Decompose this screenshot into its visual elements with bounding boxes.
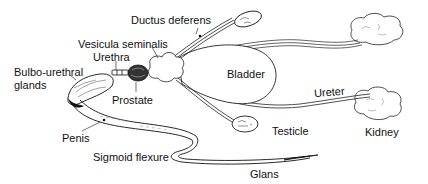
label-penis: Penis <box>62 132 90 144</box>
label-bulbo-urethral-line2: glands <box>14 79 46 91</box>
label-vesicula-seminalis: Vesicula seminalis <box>78 38 168 50</box>
label-prostate: Prostate <box>112 94 153 106</box>
label-kidney: Kidney <box>365 126 399 138</box>
testicle-lower <box>232 116 258 132</box>
urethra <box>112 70 128 75</box>
vesicula-seminalis <box>148 53 183 82</box>
kidney-upper <box>351 13 403 44</box>
label-bladder: Bladder <box>227 68 265 80</box>
label-glans: Glans <box>250 168 279 180</box>
kidney-lower <box>354 87 401 120</box>
label-urethra: Urethra <box>93 51 130 63</box>
ductus-deferens-marker <box>199 35 202 38</box>
label-sigmoid-flexure: Sigmoid flexure <box>93 151 169 163</box>
penis-marker <box>103 119 106 122</box>
label-ductus-deferens: Ductus deferens <box>131 14 211 26</box>
anatomy-diagram <box>0 0 428 184</box>
label-testicle: Testicle <box>272 125 309 137</box>
testicle-upper <box>233 8 264 30</box>
label-bulbo-urethral-line1: Bulbo-urethral <box>14 66 83 78</box>
prostate <box>128 65 148 81</box>
